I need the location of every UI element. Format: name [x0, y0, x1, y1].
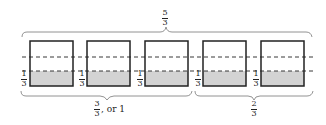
numerator: 3	[94, 100, 99, 108]
suffix-text: , or 1	[101, 104, 125, 114]
top-fraction-label: 5 3	[162, 9, 168, 27]
box-4-label: 13	[195, 70, 201, 88]
numerator: 5	[162, 9, 167, 17]
denominator: 3	[195, 80, 200, 88]
numerator: 1	[137, 70, 142, 78]
numerator: 2	[251, 100, 256, 108]
denominator: 3	[94, 110, 99, 118]
numerator: 1	[195, 70, 200, 78]
bottom-left-brace	[21, 91, 192, 100]
denominator: 3	[162, 19, 167, 27]
box-1-label: 13	[21, 70, 27, 88]
box-2-label: 13	[79, 70, 85, 88]
numerator: 1	[21, 70, 26, 78]
denominator: 3	[79, 80, 84, 88]
bottom-right-label: 23	[251, 100, 257, 118]
denominator: 3	[137, 80, 142, 88]
top-brace	[22, 27, 312, 37]
bottom-left-label: 33 , or 1	[94, 100, 125, 118]
denominator: 3	[253, 80, 258, 88]
denominator: 3	[21, 80, 26, 88]
denominator: 3	[251, 110, 256, 118]
box-5-label: 13	[253, 70, 259, 88]
numerator: 1	[253, 70, 258, 78]
box-3-label: 13	[137, 70, 143, 88]
numerator: 1	[79, 70, 84, 78]
